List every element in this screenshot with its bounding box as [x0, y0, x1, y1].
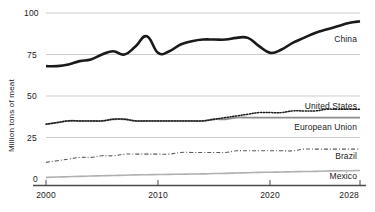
series-line-china: [46, 21, 360, 66]
chart-container: 100 75 50 25 0 Million tons of meat 2000…: [0, 0, 375, 212]
y-tick-label-0: 0: [33, 174, 38, 184]
y-axis-tick-labels: 100 75 50 25 0: [24, 8, 39, 184]
y-tick-label-25: 25: [27, 133, 37, 143]
y-axis-title: Million tons of meat: [7, 79, 16, 152]
series-label-china: China: [334, 34, 357, 44]
x-axis-tick-labels: 2000 2010 2020 2028: [36, 190, 359, 200]
series-label-mexico: Mexico: [329, 171, 357, 181]
x-tick-label-2000: 2000: [36, 190, 56, 200]
series-line-mexico: [46, 171, 360, 178]
x-tick-label-2010: 2010: [148, 190, 168, 200]
series-paths: [46, 21, 360, 177]
series-labels: China United States European Union Brazi…: [294, 34, 357, 181]
series-label-european-union: European Union: [294, 122, 357, 132]
x-tick-label-2028: 2028: [339, 190, 359, 200]
x-tick-label-2020: 2020: [260, 190, 280, 200]
x-axis-ticks: [46, 180, 360, 186]
line-chart: 100 75 50 25 0 Million tons of meat 2000…: [0, 0, 375, 212]
y-tick-label-50: 50: [27, 91, 37, 101]
series-label-brazil: Brazil: [335, 151, 357, 161]
series-label-united-states: United States: [305, 101, 357, 111]
gridlines: [46, 13, 360, 138]
y-tick-label-100: 100: [24, 8, 39, 18]
y-tick-label-75: 75: [27, 50, 37, 60]
series-line-brazil: [46, 149, 360, 162]
